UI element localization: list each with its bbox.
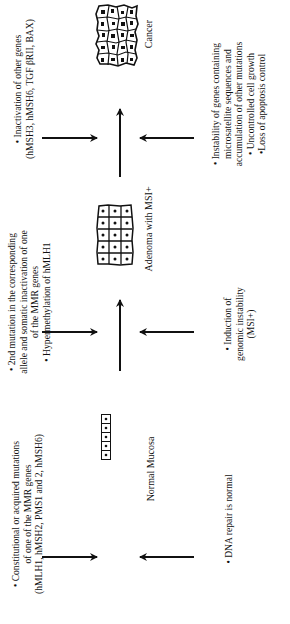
stage2-bottom-text: • Induction of genomic instability (MSI+… — [222, 264, 257, 384]
stage-label-adenoma: Adenoma with MSI+ — [143, 169, 155, 289]
stage1-bottom-text: • DNA repair is normal — [223, 439, 235, 599]
normal-mucosa-cells-icon — [101, 414, 111, 460]
adenoma-cells-icon — [96, 204, 134, 266]
stage3-bottom-text: • Instability of genes containing micros… — [210, 9, 268, 199]
stage3-top-text: • Inactivation of other genes (hMSH3, hM… — [12, 4, 35, 174]
stage-label-normal-mucosa: Normal Mucosa — [145, 419, 157, 519]
stage-label-cancer: Cancer — [143, 4, 155, 64]
cancer-cells-icon — [96, 4, 138, 66]
stage2-top-text: • 2nd mutation in the corresponding alle… — [6, 202, 52, 402]
mmr-pathway-diagram: • Constitutional or acquired mutations o… — [0, 0, 290, 624]
